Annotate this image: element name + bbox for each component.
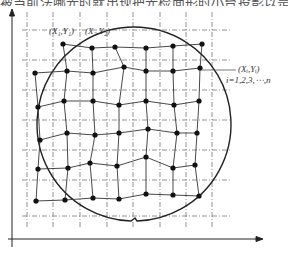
measurement-point: [194, 130, 199, 135]
measurement-point: [64, 68, 69, 73]
measurement-point: [61, 98, 66, 103]
measurement-point: [170, 43, 175, 48]
measurement-point: [92, 132, 97, 137]
measurement-point: [60, 41, 65, 46]
measurement-point: [171, 102, 176, 107]
mesh-column-line: [173, 46, 177, 195]
label-point-i: (Xᵢ,Yᵢ): [238, 64, 260, 74]
mesh-column-line: [115, 47, 124, 199]
measurement-point: [64, 130, 69, 135]
measurement-point: [32, 70, 37, 75]
mesh-column-line: [63, 44, 68, 200]
distorted-point-mesh: [35, 44, 202, 201]
measurement-point: [90, 98, 95, 103]
measurement-point: [35, 104, 40, 109]
measurement-point: [143, 68, 148, 73]
measurement-point: [87, 160, 92, 165]
measurement-point: [170, 68, 175, 73]
measurement-point: [65, 165, 70, 170]
measurement-point: [114, 163, 119, 168]
measurement-point: [62, 197, 67, 202]
measurement-point: [170, 165, 175, 170]
measurement-point: [145, 126, 150, 131]
measurement-point: [112, 44, 117, 49]
measurement-point: [90, 70, 95, 75]
measurement-point: [196, 98, 201, 103]
x-axis-arrow-icon: [256, 237, 263, 242]
measurement-point: [116, 102, 121, 107]
measurement-point: [143, 154, 148, 159]
measurement-point: [121, 64, 126, 69]
label-index-range: i=1,2,3,⋯,n: [226, 75, 271, 85]
measurement-point: [199, 41, 204, 46]
label-point-2: (X₂,Y₂): [85, 26, 110, 36]
measurement-point: [33, 198, 38, 203]
measurement-point: [143, 45, 148, 50]
measurement-point: [143, 98, 148, 103]
measurement-point: [196, 193, 201, 198]
axes: [8, 9, 263, 247]
y-axis-arrow-icon: [10, 9, 15, 16]
measurement-point: [89, 45, 94, 50]
measurement-point: [37, 137, 42, 142]
mesh-row-line: [63, 44, 202, 48]
label-point-1: (X₁,Y₁): [49, 26, 74, 36]
measurement-point: [90, 195, 95, 200]
measurement-point: [192, 162, 197, 167]
measurement-point: [170, 192, 175, 197]
measurement-point: [143, 191, 148, 196]
wafer-distortion-diagram: [0, 0, 288, 255]
measurement-point: [116, 130, 121, 135]
measurement-point: [174, 130, 179, 135]
measurement-point: [35, 166, 40, 171]
measurement-point: [116, 196, 121, 201]
measurement-points: [32, 41, 204, 203]
